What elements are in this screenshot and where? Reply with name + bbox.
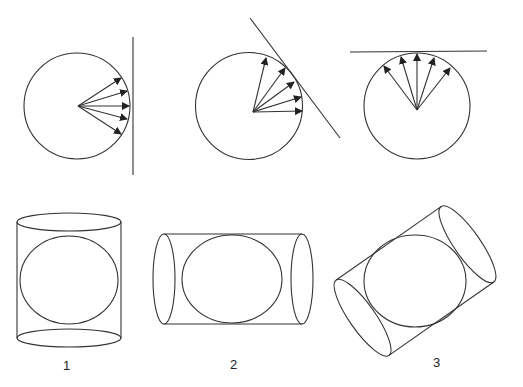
label-1: 1: [63, 358, 70, 373]
diagram-canvas: 1 2 3: [0, 0, 523, 387]
inner-circle: [364, 235, 466, 327]
arrows: [384, 54, 450, 110]
arrows: [253, 58, 302, 112]
cylinder-vertical: 1: [17, 213, 121, 373]
arrows: [78, 78, 129, 134]
circle: [196, 53, 303, 160]
panel-tangent-horizontal: [350, 51, 487, 159]
tangent-line: [250, 18, 340, 138]
label-3: 3: [433, 355, 440, 370]
panel-tangent-vertical: [24, 37, 133, 175]
cylinder-diagonal: [314, 182, 517, 380]
tangent-line: [350, 51, 487, 52]
label-2: 2: [230, 357, 237, 372]
inner-circle: [20, 236, 118, 324]
inner-circle: [182, 235, 282, 323]
panel-tangent-diagonal: [196, 18, 341, 160]
cylinder-horizontal: 2: [153, 234, 313, 372]
